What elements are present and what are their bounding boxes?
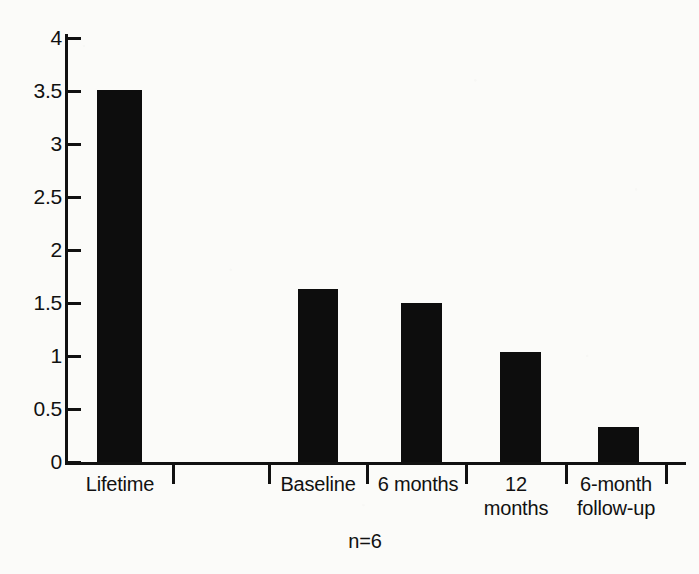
y-tick-mark-2: [68, 355, 81, 358]
x-category-label-6-month-follow-up: 6-month follow-up: [566, 472, 666, 520]
y-tick-label-5: 2.5: [4, 186, 62, 207]
sample-size-note: n=6: [305, 530, 425, 552]
x-tick-mark-0: [172, 465, 175, 484]
y-tick-label-6: 3: [4, 133, 62, 154]
y-tick-mark-7: [68, 90, 81, 93]
bar-baseline: [298, 289, 338, 462]
y-tick-mark-3: [68, 302, 81, 305]
bar-12-months: [500, 352, 541, 462]
y-tick-mark-6: [68, 143, 81, 146]
y-tick-label-3: 1.5: [4, 292, 62, 313]
y-tick-label-8: 4: [4, 27, 62, 48]
x-axis-line: [65, 462, 686, 465]
y-tick-label-7: 3.5: [4, 80, 62, 101]
x-category-label-12-months: 12 months: [467, 472, 565, 520]
x-category-label-baseline: Baseline: [270, 472, 366, 496]
bar-6-months: [401, 303, 442, 462]
bar-chart-figure: 0 0.5 1 1.5 2 2.5 3 3.5: [0, 0, 699, 574]
x-category-label-6-months: 6 months: [370, 472, 466, 496]
y-tick-mark-5: [68, 196, 81, 199]
bar-6-month-follow-up: [598, 427, 639, 462]
y-tick-mark-0: [68, 461, 81, 464]
y-tick-mark-1: [68, 408, 81, 411]
y-tick-label-4: 2: [4, 239, 62, 260]
x-tick-mark-2: [366, 465, 369, 484]
bar-lifetime: [97, 90, 142, 462]
y-tick-label-2: 1: [4, 345, 62, 366]
y-tick-label-0: 0: [4, 451, 62, 472]
plot-area: 0 0.5 1 1.5 2 2.5 3 3.5: [0, 0, 699, 574]
y-tick-mark-8: [68, 37, 81, 40]
x-category-label-lifetime: Lifetime: [72, 472, 168, 496]
y-tick-label-1: 0.5: [4, 398, 62, 419]
y-tick-mark-4: [68, 249, 81, 252]
